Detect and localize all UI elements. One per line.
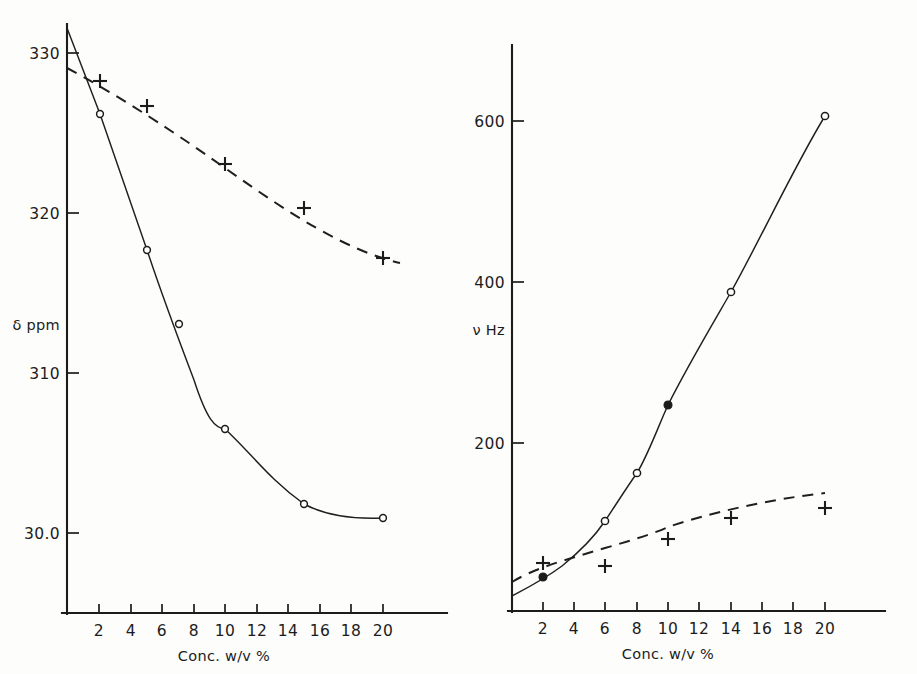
marker-plus <box>93 74 107 88</box>
right-y-tick-label-400: 400 <box>474 274 505 292</box>
marker-plus <box>536 556 550 570</box>
right-x-tick-label-14: 14 <box>721 620 742 638</box>
marker-plus <box>598 559 612 573</box>
left-y-tick-labels: 330 320 310 30.0 <box>24 45 60 543</box>
right-axes <box>508 45 885 612</box>
marker-filled-circle <box>539 573 547 581</box>
right-x-tick-label-18: 18 <box>783 620 804 638</box>
left-dashed-series-line <box>67 68 400 263</box>
marker-open-circle <box>97 111 104 118</box>
marker-filled-circle <box>664 401 672 409</box>
right-solid-series-line <box>512 116 825 596</box>
left-x-tick-label-4: 4 <box>126 622 136 640</box>
marker-open-circle <box>144 247 151 254</box>
left-x-tick-label-12: 12 <box>247 622 268 640</box>
left-y-tick-label-320: 320 <box>29 205 60 223</box>
right-x-tick-label-8: 8 <box>632 620 642 638</box>
marker-plus <box>297 201 311 215</box>
right-x-tick-label-16: 16 <box>752 620 773 638</box>
left-x-tick-label-18: 18 <box>341 622 362 640</box>
right-filled-series-markers <box>539 401 672 581</box>
right-chart-panel: 600 400 200 ν Hz 2 <box>455 0 917 674</box>
right-x-tick-label-20: 20 <box>815 620 836 638</box>
left-y-tick-label-310: 310 <box>29 365 60 383</box>
right-x-tick-label-6: 6 <box>600 620 610 638</box>
right-x-tick-label-10: 10 <box>658 620 679 638</box>
left-x-tick-label-6: 6 <box>157 622 167 640</box>
left-y-ticks <box>67 53 79 533</box>
left-chart-panel: 330 320 310 30.0 δ ppm <box>0 0 460 674</box>
left-y-axis-title: δ ppm <box>12 317 60 333</box>
marker-open-circle <box>301 501 308 508</box>
right-x-tick-label-4: 4 <box>569 620 579 638</box>
right-x-tick-label-2: 2 <box>538 620 548 638</box>
marker-open-circle <box>633 469 640 476</box>
left-axes <box>62 24 447 614</box>
marker-open-circle <box>176 321 183 328</box>
figure-root: 330 320 310 30.0 δ ppm <box>0 0 917 674</box>
right-y-tick-label-200: 200 <box>474 435 505 453</box>
marker-open-circle <box>727 288 734 295</box>
left-chart-svg: 330 320 310 30.0 δ ppm <box>0 0 460 674</box>
left-dashed-series-markers <box>93 74 390 265</box>
left-x-tick-label-10: 10 <box>215 622 236 640</box>
left-x-tick-label-2: 2 <box>94 622 104 640</box>
left-x-tick-label-16: 16 <box>310 622 331 640</box>
marker-plus <box>661 532 675 546</box>
marker-plus <box>218 157 232 171</box>
right-x-tick-labels: 2 4 6 8 10 12 14 16 18 20 <box>538 620 835 638</box>
marker-open-circle <box>601 517 608 524</box>
left-y-tick-label-330: 330 <box>29 45 60 63</box>
right-x-tick-label-12: 12 <box>689 620 710 638</box>
marker-open-circle <box>380 515 387 522</box>
right-y-tick-label-600: 600 <box>474 113 505 131</box>
left-solid-series-line <box>67 28 383 518</box>
right-y-tick-labels: 600 400 200 <box>474 113 505 453</box>
left-x-tick-label-14: 14 <box>278 622 299 640</box>
right-y-axis-title: ν Hz <box>473 322 505 338</box>
right-dashed-series-markers <box>536 501 832 573</box>
marker-open-circle <box>222 426 229 433</box>
right-x-axis-title: Conc. w/v % <box>622 646 714 662</box>
marker-plus <box>724 511 738 525</box>
right-y-ticks <box>512 121 524 443</box>
marker-plus <box>818 501 832 515</box>
right-x-ticks <box>543 602 825 611</box>
marker-open-circle <box>821 112 828 119</box>
left-x-axis-title: Conc. w/v % <box>178 648 270 664</box>
left-y-tick-label-300: 30.0 <box>24 525 60 543</box>
left-solid-series-markers <box>97 111 387 522</box>
marker-plus <box>376 251 390 265</box>
left-x-tick-label-8: 8 <box>189 622 199 640</box>
left-x-tick-labels: 2 4 6 8 10 12 14 16 18 20 <box>94 622 393 640</box>
marker-plus <box>140 99 154 113</box>
right-chart-svg: 600 400 200 ν Hz 2 <box>455 0 917 674</box>
left-x-ticks <box>99 604 383 613</box>
left-x-tick-label-20: 20 <box>373 622 394 640</box>
